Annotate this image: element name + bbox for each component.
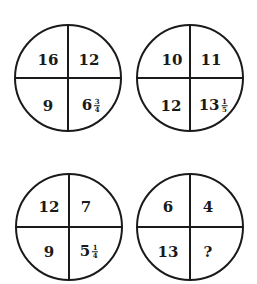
circle-bottom-right [137,174,243,280]
cell-c4-bottom-right-unknown: ? [204,245,213,260]
cell-value: 10 [162,51,183,69]
cell-c3-top-left: 12 [39,200,60,215]
cell-c2-bottom-right: 1315 [199,98,228,114]
unknown-value: ? [204,243,213,261]
number-circle-puzzle: 16 12 9 634 10 11 12 1315 12 7 9 514 6 4… [0,0,257,284]
fraction-denominator: 4 [94,106,100,113]
cell-value: 11 [201,51,222,69]
cell-value: 9 [43,97,53,115]
cell-value: 7 [81,198,91,216]
cell-c1-bottom-left: 9 [43,99,53,114]
cell-c3-top-right: 7 [81,200,91,215]
cell-c3-bottom-right: 514 [80,244,98,260]
cell-c2-top-left: 10 [162,53,183,68]
cell-c3-bottom-left: 9 [44,245,54,260]
cell-c1-top-left: 16 [38,53,59,68]
cell-value: 5 [80,242,90,260]
cell-value: 12 [161,97,182,115]
cell-value: 6 [82,96,92,114]
fraction-denominator: 4 [92,252,98,259]
cell-c1-bottom-right: 634 [82,98,100,114]
cell-value: 9 [44,243,54,261]
cell-c1-top-right: 12 [79,53,100,68]
cell-value: 6 [163,198,173,216]
circle-diagrams [0,0,257,284]
fraction: 15 [222,98,228,113]
cell-c4-top-right: 4 [203,200,213,215]
circle-top-left [15,25,121,131]
cell-value: 16 [38,51,59,69]
fraction: 34 [94,98,100,113]
cell-value: 12 [79,51,100,69]
fraction-denominator: 5 [222,106,228,113]
cell-c4-bottom-left: 13 [158,245,179,260]
circle-bottom-left [16,174,122,280]
cell-value: 13 [158,243,179,261]
cell-value: 12 [39,198,60,216]
cell-value: 13 [199,96,220,114]
cell-c2-top-right: 11 [201,53,222,68]
circle-top-right [137,25,243,131]
cell-c4-top-left: 6 [163,200,173,215]
cell-c2-bottom-left: 12 [161,99,182,114]
fraction: 14 [92,244,98,259]
cell-value: 4 [203,198,213,216]
